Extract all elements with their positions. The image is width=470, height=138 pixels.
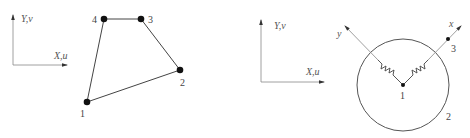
spring-x bbox=[403, 60, 428, 85]
left-y-axis-label: Y,v bbox=[21, 13, 33, 24]
circle-element: 1 2 3 y x bbox=[336, 18, 461, 131]
quad-node-3-label: 3 bbox=[148, 14, 153, 25]
right-figure: Y,v X,u 1 2 3 y x bbox=[261, 18, 461, 131]
local-y-axis-label: y bbox=[336, 28, 342, 39]
left-global-axes: Y,v X,u bbox=[13, 13, 68, 65]
left-x-axis-label: X,u bbox=[53, 50, 68, 61]
local-y-axis bbox=[345, 26, 378, 60]
local-x-axis bbox=[428, 26, 461, 60]
local-x-axis-label: x bbox=[448, 18, 454, 29]
quad-node-2-label: 2 bbox=[180, 77, 185, 88]
quad-node-1-label: 1 bbox=[80, 108, 85, 119]
circle-node-2-label: 2 bbox=[446, 111, 451, 122]
diagram-svg: Y,v X,u 1 2 3 4 Y,v X,u bbox=[0, 0, 470, 138]
circle-node-1-label: 1 bbox=[400, 90, 405, 101]
edge-2-3 bbox=[141, 19, 180, 70]
quad-node-2 bbox=[177, 67, 184, 74]
diagram-canvas: Y,v X,u 1 2 3 4 Y,v X,u bbox=[0, 0, 470, 138]
right-x-axis-label: X,u bbox=[305, 66, 320, 77]
quad-node-4-label: 4 bbox=[92, 14, 97, 25]
edge-1-2 bbox=[87, 70, 180, 102]
circle-node-3 bbox=[446, 37, 450, 41]
edge-4-1 bbox=[87, 19, 104, 102]
quad-node-1 bbox=[84, 99, 91, 106]
right-y-axis-label: Y,v bbox=[274, 20, 286, 31]
quad-element: 1 2 3 4 bbox=[80, 14, 185, 119]
circle-node-3-label: 3 bbox=[451, 43, 456, 54]
left-figure: Y,v X,u 1 2 3 4 bbox=[13, 13, 185, 119]
spring-y bbox=[378, 60, 403, 85]
right-global-axes: Y,v X,u bbox=[261, 20, 324, 82]
circle-node-1 bbox=[401, 83, 405, 87]
quad-node-3 bbox=[138, 16, 145, 23]
quad-node-4 bbox=[101, 16, 108, 23]
